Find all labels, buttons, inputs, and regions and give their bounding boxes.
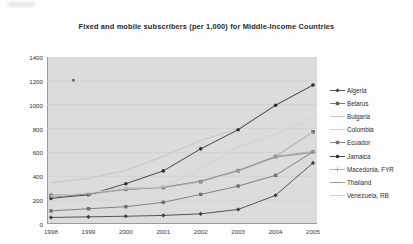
legend-item-ecuador[interactable]: Ecuador	[330, 136, 413, 149]
legend-swatch-icon	[330, 138, 345, 147]
y-axis-tick-label: 0	[40, 221, 43, 228]
legend-item-bulgaria[interactable]: Bulgaria	[330, 110, 413, 123]
legend-swatch-icon	[330, 191, 345, 200]
y-axis-tick-label: 1200	[29, 77, 43, 84]
x-axis-tick-label: 2000	[119, 228, 133, 235]
legend-item-label: Algeria	[347, 87, 367, 94]
legend-item-algeria[interactable]: Algeria	[330, 84, 413, 97]
x-axis-tick-label: 2003	[231, 228, 245, 235]
x-axis-tick-label: 2001	[156, 228, 170, 235]
legend-swatch-icon	[330, 99, 345, 108]
legend-item-belarus[interactable]: Belarus	[330, 97, 413, 110]
scan-artifact	[8, 2, 34, 7]
x-axis-tick-label: 1998	[44, 228, 58, 235]
series-macedonia-fyr	[49, 149, 315, 198]
legend-item-label: Thailand	[347, 179, 371, 186]
annotation-layer	[72, 79, 74, 81]
plot-area: 0200400600800100012001400 19981999200020…	[47, 57, 317, 224]
legend-swatch-icon	[330, 125, 345, 134]
y-axis-tick-label: 1000	[29, 101, 43, 108]
legend-item-label: Ecuador	[347, 139, 370, 146]
series-jamaica	[49, 83, 315, 200]
x-axis-tick-label: 1999	[82, 228, 96, 235]
legend-item-colombia[interactable]: Colombia	[330, 123, 413, 136]
x-axis-tick-label: 2002	[194, 228, 208, 235]
legend-item-thailand[interactable]: Thailand	[330, 176, 413, 189]
plot-canvas	[47, 57, 317, 224]
legend-swatch-icon	[330, 112, 345, 121]
y-axis-tick-label: 400	[33, 173, 43, 180]
x-axis-tick-label: 2005	[306, 228, 320, 235]
chart-figure: Fixed and mobile subscribers (per 1,000)…	[0, 0, 413, 244]
stray-marker	[72, 79, 74, 81]
legend-swatch-icon	[330, 152, 345, 161]
legend-swatch-icon	[330, 86, 345, 95]
y-axis-tick-label: 800	[33, 125, 43, 132]
series-colombia	[51, 132, 313, 198]
legend-swatch-icon	[330, 178, 345, 187]
series-layer	[49, 83, 315, 219]
chart-title: Fixed and mobile subscribers (per 1,000)…	[0, 22, 413, 31]
legend-item-label: Macedonia, FYR	[347, 166, 394, 173]
x-axis-tick-label: 2004	[269, 228, 283, 235]
series-belarus	[49, 130, 314, 197]
legend-item-macedonia-fyr[interactable]: Macedonia, FYR	[330, 163, 413, 176]
legend-swatch-icon	[330, 165, 345, 174]
legend-item-label: Venezuela, RB	[347, 192, 389, 199]
legend-item-label: Bulgaria	[347, 113, 370, 120]
series-algeria	[49, 161, 315, 220]
legend-item-venezuela-rb[interactable]: Venezuela, RB	[330, 189, 413, 202]
y-axis-tick-label: 1400	[29, 54, 43, 61]
legend-item-label: Colombia	[347, 126, 374, 133]
legend-item-jamaica[interactable]: Jamaica	[330, 149, 413, 162]
legend-item-label: Jamaica	[347, 153, 370, 160]
y-axis-tick-label: 200	[33, 197, 43, 204]
chart-legend: AlgeriaBelarusBulgariaColombiaEcuadorJam…	[330, 84, 413, 202]
y-axis-tick-label: 600	[33, 149, 43, 156]
legend-item-label: Belarus	[347, 100, 368, 107]
